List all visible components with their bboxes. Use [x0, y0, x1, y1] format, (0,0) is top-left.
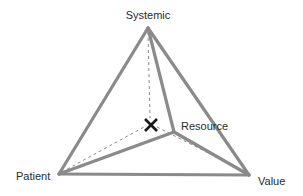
label-resource: Resource — [181, 120, 228, 132]
label-value: Value — [258, 175, 285, 187]
edge-systemic-patient — [59, 28, 148, 174]
label-patient: Patient — [16, 170, 50, 182]
tetrahedron-edges — [59, 28, 249, 175]
edge-systemic-value — [148, 28, 249, 175]
edge-patient-value — [59, 174, 249, 175]
tetrahedron-diagram: Systemic Resource Patient Value — [0, 0, 303, 196]
edge-resource-value — [174, 132, 249, 175]
edge-systemic-resource — [148, 28, 174, 132]
dashed-line-systemic-to-marker — [148, 32, 150, 118]
edge-patient-resource — [59, 132, 174, 174]
label-systemic: Systemic — [126, 9, 171, 21]
x-marker-icon — [145, 119, 157, 131]
